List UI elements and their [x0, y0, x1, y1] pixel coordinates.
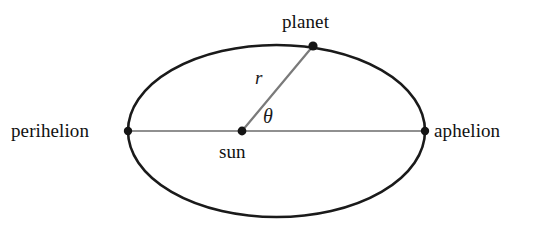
aphelion-point-marker [421, 127, 429, 135]
radius-line [242, 46, 313, 131]
sun-point-marker [238, 127, 247, 136]
perihelion-point-marker [124, 127, 132, 135]
radius-symbol-label: r [255, 68, 263, 87]
sun-label: sun [219, 142, 246, 161]
perihelion-label: perihelion [11, 121, 89, 140]
aphelion-label: aphelion [434, 121, 500, 140]
planet-point-marker [308, 41, 317, 50]
planet-label: planet [282, 12, 329, 31]
angle-theta-symbol-label: θ [263, 106, 273, 126]
orbit-diagram: perihelion aphelion planet sun r θ [0, 0, 536, 230]
